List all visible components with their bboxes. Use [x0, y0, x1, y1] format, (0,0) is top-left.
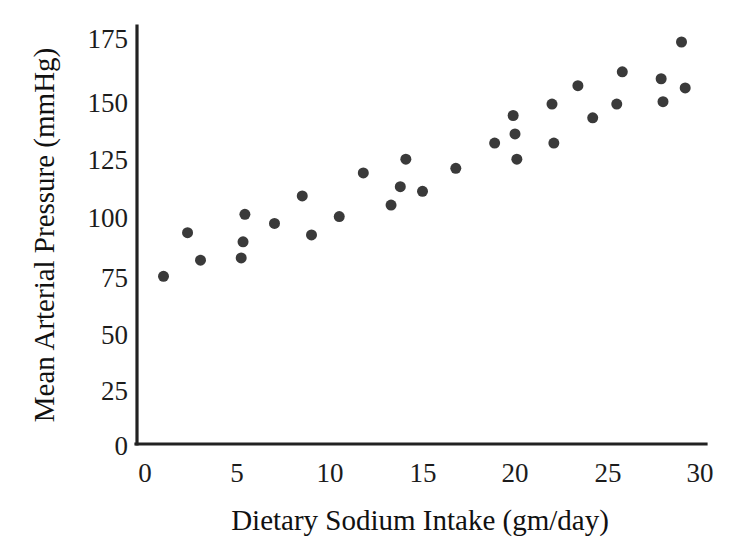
- data-point: [587, 112, 598, 123]
- data-point: [489, 138, 500, 149]
- x-tick-label: 5: [230, 458, 244, 488]
- y-axis-title: Mean Arterial Pressure (mmHg): [28, 48, 61, 422]
- x-tick-label: 20: [502, 458, 529, 488]
- y-tick-label: 100: [88, 203, 129, 233]
- data-point: [358, 167, 369, 178]
- data-point: [239, 209, 250, 220]
- data-point: [386, 200, 397, 211]
- y-tick-label: 25: [101, 376, 128, 406]
- data-point: [269, 218, 280, 229]
- y-tick-label: 50: [101, 320, 128, 350]
- data-point: [182, 227, 193, 238]
- scatter-plot: 175 150 125 100 75 50 25 0 0 5 10 15 20 …: [0, 0, 753, 549]
- x-tick-label: 15: [410, 458, 437, 488]
- data-point: [656, 73, 667, 84]
- data-point: [676, 37, 687, 48]
- data-point: [334, 211, 345, 222]
- chart-page: 175 150 125 100 75 50 25 0 0 5 10 15 20 …: [0, 0, 753, 549]
- data-point: [617, 66, 628, 77]
- data-point: [450, 163, 461, 174]
- data-point: [297, 190, 308, 201]
- data-point: [306, 229, 317, 240]
- data-point: [611, 99, 622, 110]
- y-tick-label: 0: [115, 431, 129, 461]
- data-point: [158, 271, 169, 282]
- data-point: [508, 110, 519, 121]
- data-point: [548, 138, 559, 149]
- data-point: [238, 236, 249, 247]
- data-point: [395, 181, 406, 192]
- data-point: [658, 96, 669, 107]
- data-point: [572, 80, 583, 91]
- x-tick-label: 25: [595, 458, 622, 488]
- data-point: [510, 128, 521, 139]
- y-tick-label: 125: [88, 145, 129, 175]
- y-tick-label: 175: [88, 24, 129, 54]
- x-axis-title: Dietary Sodium Intake (gm/day): [231, 504, 609, 537]
- data-point: [511, 154, 522, 165]
- data-point: [547, 99, 558, 110]
- x-tick-label: 30: [687, 458, 714, 488]
- data-point: [195, 255, 206, 266]
- x-tick-label: 0: [138, 458, 152, 488]
- data-point: [680, 82, 691, 93]
- x-tick-label: 10: [317, 458, 344, 488]
- y-tick-label: 150: [88, 88, 129, 118]
- y-tick-label: 75: [101, 263, 128, 293]
- data-point: [417, 186, 428, 197]
- data-point: [236, 252, 247, 263]
- data-point: [400, 154, 411, 165]
